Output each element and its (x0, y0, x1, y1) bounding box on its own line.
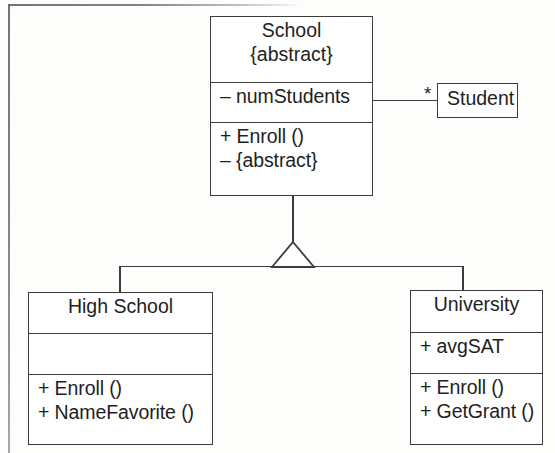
attributes-compartment-school: – numStudents (211, 82, 372, 122)
multiplicity-student: * (424, 84, 431, 103)
generalization-branch-high-school (119, 266, 121, 293)
class-name-compartment-school: School {abstract} (211, 17, 372, 82)
class-name-high-school: High School (38, 295, 203, 319)
operation-row: – {abstract} (220, 149, 363, 173)
class-name-student: Student (447, 87, 508, 111)
operation-row: + Enroll () (38, 377, 203, 401)
operations-compartment-university: + Enroll () + GetGrant () (411, 373, 542, 443)
operation-row: + NameFavorite () (38, 401, 203, 425)
operation-row: + Enroll () (220, 125, 363, 149)
class-name-compartment-high-school: High School (29, 293, 212, 333)
operations-compartment-high-school: + Enroll () + NameFavorite () (29, 374, 212, 443)
attribute-row: + avgSAT (420, 335, 533, 359)
class-name-compartment-student: Student (438, 84, 517, 117)
page-border-top (9, 4, 302, 6)
class-name-school: School (220, 19, 363, 43)
class-stereotype-school: {abstract} (220, 43, 363, 67)
class-name-compartment-university: University (411, 291, 542, 332)
uml-class-diagram: * School {abstract} – numStudents + Enro… (0, 0, 555, 453)
class-box-university[interactable]: University + avgSAT + Enroll () + GetGra… (410, 290, 543, 445)
class-box-school[interactable]: School {abstract} – numStudents + Enroll… (210, 16, 373, 196)
operation-row: + GetGrant () (420, 400, 533, 424)
generalization-branch-university (462, 266, 464, 291)
class-box-high-school[interactable]: High School + Enroll () + NameFavorite (… (28, 292, 213, 445)
attributes-compartment-high-school (29, 333, 212, 374)
attribute-row: – numStudents (220, 85, 363, 109)
operations-compartment-school: + Enroll () – {abstract} (211, 122, 372, 193)
attributes-compartment-university: + avgSAT (411, 332, 542, 373)
generalization-triangle (268, 240, 318, 270)
operation-row: + Enroll () (420, 376, 533, 400)
generalization-stem (292, 196, 294, 244)
class-box-student[interactable]: Student (437, 83, 518, 118)
page-border-left (8, 4, 10, 453)
class-name-university: University (420, 293, 533, 317)
